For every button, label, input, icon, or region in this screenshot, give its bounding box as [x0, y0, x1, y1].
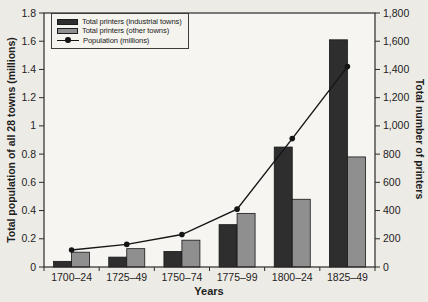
legend-label: Population (millions) [83, 36, 149, 45]
bar-series1-1700–24 [72, 252, 90, 267]
bar-series0-1725–49 [109, 257, 127, 267]
legend-item-industrial: Total printers (industrial towns) [57, 17, 184, 26]
category-label: 1700–24 [51, 271, 92, 283]
legend: Total printers (industrial towns) Total … [51, 13, 189, 49]
left-axis-tick-label: 1.4 [21, 63, 36, 75]
right-axis-tick-label: 400 [383, 204, 401, 216]
legend-label: Total printers (industrial towns) [82, 17, 182, 26]
bar-series0-1750–74 [164, 251, 182, 267]
category-label: 1725–49 [106, 271, 147, 283]
bar-series1-1825–49 [347, 157, 365, 267]
right-axis-tick-label: 800 [383, 148, 401, 160]
right-axis-tick-label: 1,400 [383, 63, 409, 75]
chart-figure: 00.20.40.60.811.21.41.61.802004006008001… [0, 0, 428, 302]
bar-series1-1725–49 [127, 249, 145, 267]
bar-series0-1775–99 [219, 225, 237, 267]
left-axis-tick-label: 0.6 [21, 176, 36, 188]
bar-series0-1800–24 [274, 147, 292, 267]
data-point-marker [69, 247, 75, 253]
legend-label: Total printers (other towns) [82, 26, 169, 35]
data-point-marker [234, 206, 240, 212]
left-axis-tick-label: 1.6 [21, 35, 36, 47]
right-axis-tick-label: 1,800 [383, 7, 409, 19]
left-axis-tick-label: 1.8 [21, 7, 36, 19]
category-label: 1800–24 [272, 271, 313, 283]
left-axis-tick-label: 0 [30, 261, 36, 273]
right-axis-tick-label: 0 [383, 261, 389, 273]
right-axis-tick-label: 600 [383, 176, 401, 188]
left-axis-tick-label: 0.8 [21, 148, 36, 160]
bar-series1-1775–99 [237, 213, 255, 267]
category-label: 1775–99 [217, 271, 258, 283]
category-label: 1825–49 [327, 271, 368, 283]
bar-series0-1825–49 [329, 40, 347, 267]
data-point-marker [289, 136, 295, 142]
right-axis-tick-label: 1,600 [383, 35, 409, 47]
legend-swatch-line-marker-icon [57, 36, 79, 44]
bar-series1-1800–24 [292, 199, 310, 267]
data-point-marker [124, 242, 130, 248]
right-axis-tick-label: 1,200 [383, 91, 409, 103]
x-axis-title: Years [194, 285, 223, 297]
left-axis-tick-label: 1.2 [21, 91, 36, 103]
bar-series0-1700–24 [54, 261, 72, 267]
category-label: 1750–74 [161, 271, 202, 283]
data-point-marker [179, 232, 185, 238]
plot-area [44, 13, 375, 267]
right-axis-tick-label: 200 [383, 232, 401, 244]
left-axis-tick-label: 1 [30, 119, 36, 131]
left-axis-tick-label: 0.2 [21, 232, 36, 244]
legend-item-other: Total printers (other towns) [57, 26, 184, 35]
left-axis-title: Total population of all 28 towns (millio… [5, 37, 17, 243]
legend-swatch-other-bar-icon [57, 28, 78, 34]
left-axis-tick-label: 0.4 [21, 204, 36, 216]
legend-item-population: Population (millions) [57, 36, 184, 45]
right-axis-tick-label: 1,000 [383, 119, 409, 131]
right-axis-title: Total number of printers [414, 79, 426, 200]
bar-series1-1750–74 [182, 240, 200, 267]
legend-swatch-industrial-bar-icon [57, 19, 78, 25]
data-point-marker [345, 64, 351, 70]
